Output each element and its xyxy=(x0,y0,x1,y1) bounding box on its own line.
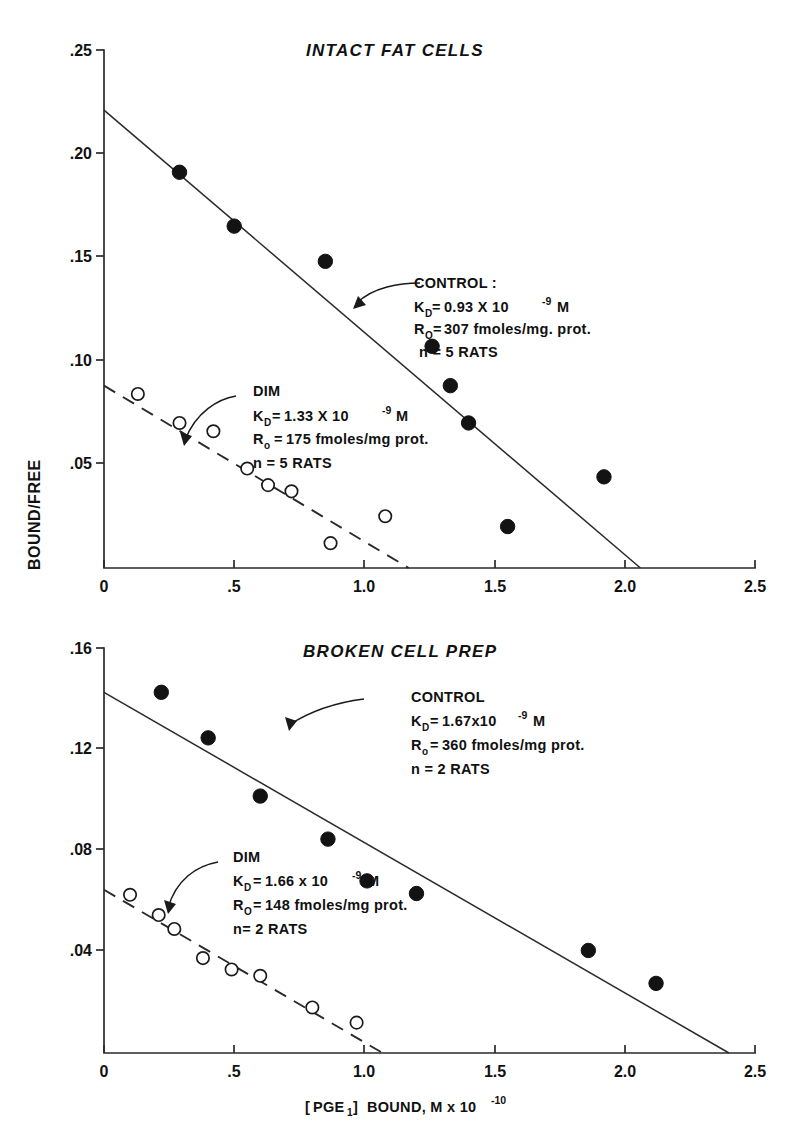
panel-1-dim-kd-exponent: -9 xyxy=(382,404,391,416)
data-point-control-5 xyxy=(409,886,423,900)
panel-2-xtick-label-5: 2.5 xyxy=(744,1063,766,1080)
panel-2-xtick-label-0: 0 xyxy=(100,1063,109,1080)
panel-1-xtick-label-4: 2.0 xyxy=(614,578,636,595)
x-axis-bracket-open: [ xyxy=(305,1099,310,1115)
panel-1-dim-n: n = 5 RATS xyxy=(253,455,332,471)
data-point-dim-3 xyxy=(241,462,253,474)
panel-1-xtick-label-5: 2.5 xyxy=(744,578,766,595)
panel-2-dim-ro-symbol: R xyxy=(233,897,244,913)
data-point-control-6 xyxy=(597,470,611,484)
panel-2-dim-kd-value: 1.66 x 10 xyxy=(265,873,328,889)
data-point-dim-7 xyxy=(350,1016,362,1028)
panel-1-control-kd-eq: = xyxy=(432,299,441,315)
data-point-control-1 xyxy=(201,731,215,745)
panel-1-dim-label: DIM xyxy=(253,383,280,399)
panel-1-xtick-label-3: 1.5 xyxy=(484,578,506,595)
panel-1-control-ro-symbol: R xyxy=(414,321,425,337)
panel-2-xtick-label-3: 1.5 xyxy=(484,1063,506,1080)
data-point-control-5 xyxy=(461,416,475,430)
panel-1-control-ro-eq: = xyxy=(433,321,442,337)
data-point-control-0 xyxy=(172,165,186,179)
panel-1-ytick-label-2: .15 xyxy=(70,248,92,265)
data-point-control-6 xyxy=(581,943,595,957)
panel-1-dim-ro-sub: o xyxy=(264,440,270,451)
panel-1-control-kd-exponent: -9 xyxy=(542,295,551,307)
panel-2-dim-ro-sub: O xyxy=(244,906,252,917)
panel-2-xtick-label-1: .5 xyxy=(227,1063,240,1080)
panel-1-ytick-label-0: .25 xyxy=(70,42,92,59)
data-point-dim-7 xyxy=(324,537,336,549)
panel-1-control-kd-symbol: K xyxy=(414,299,425,315)
panel-1-control-ro-sub: O xyxy=(425,330,433,341)
panel-2-dim-label: DIM xyxy=(233,849,260,865)
panel-1-control-n: n = 5 RATS xyxy=(419,344,498,360)
panel-2-control-kd-exponent: -9 xyxy=(518,709,527,721)
panel-1-ytick-label-1: .20 xyxy=(70,145,92,162)
data-point-control-2 xyxy=(253,789,267,803)
panel-2-control-kd-sub: D xyxy=(422,722,429,733)
panel-1-control-kd-unit: M xyxy=(557,299,569,315)
panel-1-xtick-label-0: 0 xyxy=(100,578,109,595)
panel-2-xtick-label-2: 1.0 xyxy=(353,1063,375,1080)
panel-2-ytick-label-0: .16 xyxy=(70,640,92,657)
panel-2-control-n: n = 2 RATS xyxy=(411,761,490,777)
panel-1-xtick-label-1: .5 xyxy=(227,578,240,595)
panel-2-dim-kd-symbol: K xyxy=(233,873,244,889)
data-point-dim-1 xyxy=(173,417,185,429)
data-point-control-3 xyxy=(321,832,335,846)
panel-2-control-ro-eq: = xyxy=(430,737,439,753)
panel-1-title: INTACT FAT CELLS xyxy=(306,41,484,60)
panel-2-control-ro-symbol: R xyxy=(411,737,422,753)
panel-1-ytick-label-3: .10 xyxy=(70,352,92,369)
panel-2-dim-ro-value: 148 fmoles/mg prot. xyxy=(265,897,408,913)
panel-2-dim-kd-exponent: -9 xyxy=(352,869,361,881)
data-point-control-0 xyxy=(154,685,168,699)
y-axis-title: BOUND/FREE xyxy=(26,459,43,570)
panel-2-dim-kd-unit: M xyxy=(367,873,379,889)
x-axis-rest: BOUND, M x 10 xyxy=(367,1099,476,1115)
panel-1-dim-kd-value: 1.33 X 10 xyxy=(284,408,349,424)
panel-2-xtick-label-4: 2.0 xyxy=(614,1063,636,1080)
data-point-control-1 xyxy=(227,219,241,233)
panel-2-control-kd-unit: M xyxy=(533,713,545,729)
panel-1-dim-kd-sub: D xyxy=(264,417,271,428)
panel-2-control-label: CONTROL xyxy=(411,689,485,705)
panel-1-dim-kd-eq: = xyxy=(272,408,281,424)
panel-1-ytick-label-4: .05 xyxy=(70,455,92,472)
data-point-dim-6 xyxy=(306,1001,318,1013)
panel-1-dim-ro-eq: = xyxy=(274,431,283,447)
data-point-dim-2 xyxy=(207,425,219,437)
panel-2-control-kd-value: 1.67x10 xyxy=(442,713,497,729)
panel-1-control-ro-value: 307 fmoles/mg. prot. xyxy=(444,321,591,337)
panel-1-dim-ro-value: 175 fmoles/mg prot. xyxy=(286,431,429,447)
panel-1-dim-ro-symbol: R xyxy=(253,431,264,447)
panel-2-dim-n: n= 2 RATS xyxy=(233,921,308,937)
panel-2-control-kd-eq: = xyxy=(430,713,439,729)
panel-2-dim-kd-sub: D xyxy=(244,882,251,893)
data-point-dim-0 xyxy=(132,388,144,400)
panel-1-xtick-label-2: 1.0 xyxy=(353,578,375,595)
panel-1-control-label: CONTROL : xyxy=(414,275,497,291)
panel-2-ytick-label-1: .12 xyxy=(70,740,92,757)
panel-2-ytick-label-3: .04 xyxy=(70,942,92,959)
panel-2-ytick-label-2: .08 xyxy=(70,841,92,858)
panel-2-control-ro-sub: o xyxy=(422,746,428,757)
data-point-dim-5 xyxy=(254,970,266,982)
scatchard-figure: BOUND/FREE INTACT FAT CELLS .25 .20 .15 … xyxy=(0,0,808,1145)
panel-2-title: BROKEN CELL PREP xyxy=(303,642,497,661)
data-point-dim-1 xyxy=(152,909,164,921)
x-axis-exponent: -10 xyxy=(491,1094,506,1106)
data-point-control-7 xyxy=(649,976,663,990)
panel-2-dim-ro-eq: = xyxy=(253,897,262,913)
data-point-dim-2 xyxy=(168,923,180,935)
data-point-dim-0 xyxy=(124,889,136,901)
data-point-control-4 xyxy=(443,378,457,392)
panel-1-dim-kd-symbol: K xyxy=(253,408,264,424)
panel-1-dim-kd-unit: M xyxy=(396,408,408,424)
data-point-dim-5 xyxy=(285,485,297,497)
data-point-dim-3 xyxy=(197,952,209,964)
panel-2-dim-kd-eq: = xyxy=(253,873,262,889)
data-point-dim-6 xyxy=(379,510,391,522)
figure-background xyxy=(0,0,808,1145)
panel-2-control-ro-value: 360 fmoles/mg prot. xyxy=(442,737,585,753)
